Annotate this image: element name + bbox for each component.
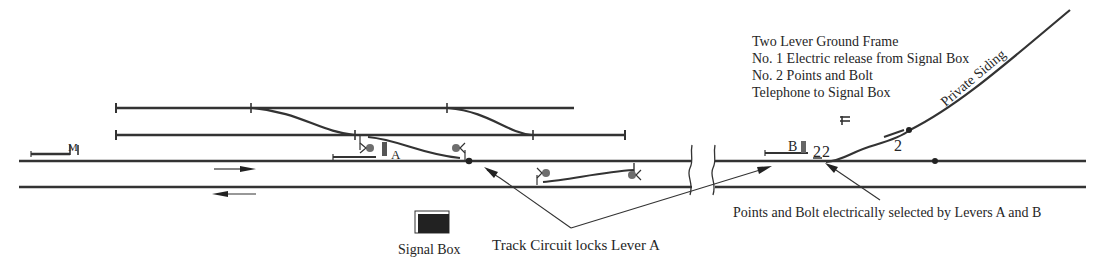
lever-b-label: B: [788, 139, 797, 155]
note-line-1: Two Lever Ground Frame: [752, 33, 969, 50]
track-circuit-annotation: Track Circuit locks Lever A: [492, 237, 660, 253]
arrow-left-icon: [212, 191, 256, 197]
ground-signal-b: [765, 141, 808, 156]
points-bolt-annotation: Points and Bolt electrically selected by…: [733, 205, 1041, 221]
crossover-siding-to-main: [368, 137, 460, 158]
lever-a-label: A: [391, 147, 400, 163]
crossover-main-lines: [543, 170, 634, 182]
siding-upper: [116, 103, 574, 113]
frame-lever-numbers: 22: [813, 144, 831, 160]
note-line-2: No. 1 Electric release from Signal Box: [752, 50, 969, 67]
points-lever-number: 2: [894, 138, 902, 154]
note-line-4: Telephone to Signal Box: [752, 84, 969, 101]
break-mark-right: [712, 145, 715, 195]
track-circuit-joint: [466, 158, 473, 165]
signal-box-icon: [415, 211, 449, 233]
track-joint-right: [932, 158, 938, 164]
crossover-siding-2: [448, 108, 532, 135]
track-circuit-leader: [484, 166, 772, 228]
signal-m-label: M: [68, 139, 78, 155]
signal-box-label: Signal Box: [398, 242, 461, 258]
ground-frame-notes: Two Lever Ground Frame No. 1 Electric re…: [752, 33, 969, 101]
points-bolt-leader: [825, 163, 880, 200]
note-line-3: No. 2 Points and Bolt: [752, 67, 969, 84]
siding-lower: [116, 130, 625, 140]
lever-a-block: [382, 142, 387, 156]
arrow-right-icon: [214, 166, 256, 172]
points-joint: [906, 127, 912, 133]
lever-b-block: [801, 141, 806, 153]
telephone-icon: [840, 116, 850, 125]
crossover-siding-1: [252, 108, 355, 135]
